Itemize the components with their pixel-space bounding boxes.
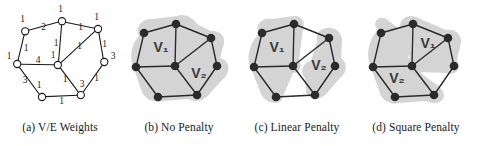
vertex-weight-left: 1 — [7, 51, 12, 61]
region-label-v1: V₁ — [420, 35, 435, 51]
region-label-v2: V₂ — [389, 70, 405, 86]
node-bottom-left — [154, 93, 163, 102]
panel-d-square-penalty: V₁ V₂ (d) Square Penalty — [356, 0, 476, 146]
node-bottom-right — [430, 91, 439, 100]
edge-weight-bottomleft-bottomright: 1 — [59, 96, 64, 106]
edge-weight-topmid-topright: 1 — [78, 22, 83, 32]
edge-weight-topleft-topmid: 2 — [41, 22, 46, 32]
vertex-weight-top-mid: 1 — [58, 4, 63, 14]
panel-b-caption: (b) No Penalty — [119, 120, 239, 134]
node-bottom-left — [272, 93, 281, 102]
vertex-weight-right: 3 — [111, 51, 116, 61]
vertex-weight-top-right: 1 — [94, 12, 99, 22]
node-bottom-left — [391, 93, 400, 102]
panel-b-no-penalty: V₁ V₂ (b) No Penalty — [119, 0, 239, 146]
node-top-left — [377, 29, 386, 38]
panel-c-graph: V₁ V₂ — [237, 0, 357, 118]
panel-d-graph: V₁ V₂ — [356, 0, 476, 118]
edge-weight-topright-center: 1 — [77, 41, 82, 51]
edge-weight-topleft-left: 1 — [24, 43, 29, 53]
node-left — [250, 63, 259, 72]
node-left — [132, 63, 141, 72]
vertex-weight-center: 1 — [51, 50, 56, 60]
region-label-v2: V₂ — [311, 57, 327, 73]
edge-weight-topright-right: 1 — [102, 39, 107, 49]
vertex-weight-bottom-left: 1 — [37, 80, 42, 90]
node-top-mid — [409, 20, 418, 29]
node-right — [450, 62, 459, 71]
node-top-mid — [290, 20, 299, 29]
panel-c-caption: (c) Linear Penalty — [237, 120, 357, 134]
vertex-weight-top-left: 1 — [20, 14, 25, 24]
node-top-left — [258, 29, 267, 38]
node-top-right — [207, 34, 216, 43]
edge-weight-left-center: 4 — [36, 55, 41, 65]
panel-b-graph: V₁ V₂ — [119, 0, 239, 118]
node-top-mid — [172, 20, 181, 29]
node-bottom-right — [193, 91, 202, 100]
figure-partition-penalties: 1 1 1 3 1 1 1 3 2 1 1 1 1 1 4 3 — [0, 0, 478, 146]
node-top-right — [325, 34, 334, 43]
edge-weight-center-bottomright: 1 — [63, 74, 68, 84]
node-left — [369, 63, 378, 72]
edge-weight-left-bottomleft: 3 — [23, 75, 28, 85]
edge-weight-right-bottomright: 1 — [94, 73, 99, 83]
region-label-v1: V₁ — [269, 39, 284, 55]
panel-a-caption: (a) V/E Weights — [0, 120, 120, 134]
node-center — [289, 62, 298, 71]
node-top-left — [140, 29, 149, 38]
region-label-v1: V₁ — [153, 39, 168, 55]
vertex-weight-bottom-right: 3 — [80, 79, 85, 89]
node-bottom-right — [311, 91, 320, 100]
node-center — [408, 62, 417, 71]
panel-c-linear-penalty: V₁ V₂ (c) Linear Penalty — [237, 0, 357, 146]
region-blob-b — [131, 15, 228, 102]
node-center — [171, 62, 180, 71]
panel-d-caption: (d) Square Penalty — [356, 120, 476, 134]
node-right — [213, 62, 222, 71]
node-top-right — [444, 34, 453, 43]
panel-a-graph: 1 1 1 3 1 1 1 3 2 1 1 1 1 1 4 3 — [0, 0, 120, 118]
node-right — [331, 62, 340, 71]
edge-weight-topmid-center: 1 — [54, 38, 59, 48]
region-label-v2: V₂ — [191, 65, 207, 81]
panel-a-ve-weights: 1 1 1 3 1 1 1 3 2 1 1 1 1 1 4 3 — [0, 0, 120, 146]
